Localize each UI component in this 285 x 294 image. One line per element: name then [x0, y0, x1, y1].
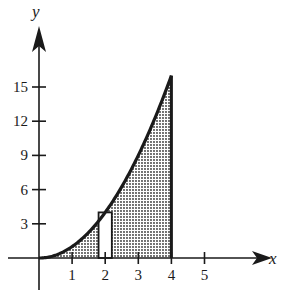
area-under-curve-plot: 123453691215 x y: [0, 0, 285, 294]
y-tick-label: 6: [21, 182, 29, 198]
x-tick-label: 5: [201, 267, 209, 283]
y-tick-label: 15: [13, 79, 28, 95]
x-tick-label: 4: [168, 267, 176, 283]
y-tick-label: 3: [21, 216, 29, 232]
x-tick-label: 1: [68, 267, 76, 283]
y-axis-label: y: [30, 2, 40, 21]
y-tick-label: 12: [13, 113, 28, 129]
x-tick-label: 2: [101, 267, 109, 283]
x-tick-label: 3: [135, 267, 143, 283]
y-tick-label: 9: [21, 147, 29, 163]
x-axis-label: x: [268, 249, 277, 268]
